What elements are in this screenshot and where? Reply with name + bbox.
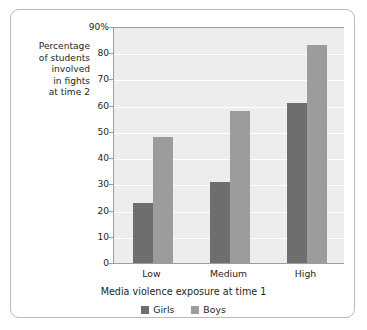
- y-axis-tick-mark: [109, 184, 113, 185]
- y-axis-tick-label: 50: [75, 127, 109, 137]
- x-axis-title: Media violence exposure at time 1: [0, 286, 367, 297]
- x-axis-line: [113, 263, 344, 264]
- y-axis-tick-mark: [109, 132, 113, 133]
- legend-item-girls: Girls: [141, 304, 174, 315]
- plot-area: [113, 27, 344, 263]
- y-axis-tick-label: 80: [75, 48, 109, 58]
- x-axis-category-label: High: [295, 268, 316, 279]
- legend-swatch-boys: [191, 306, 199, 314]
- y-axis-tick-mark: [109, 263, 113, 264]
- y-axis-tick-label: 20: [75, 206, 109, 216]
- legend-swatch-girls: [141, 306, 149, 314]
- y-axis-tick-mark: [109, 158, 113, 159]
- y-axis-tick-label: 10: [75, 232, 109, 242]
- y-axis-tick-labels: 0102030405060708090%: [71, 0, 109, 330]
- bar-boys-low: [153, 137, 173, 263]
- x-axis-category-label: Medium: [210, 268, 247, 279]
- y-axis-tick-label: 60: [75, 101, 109, 111]
- chart-legend: Girls Boys: [0, 304, 367, 315]
- bar-boys-high: [307, 45, 327, 263]
- y-axis-tick-label: 30: [75, 179, 109, 189]
- y-axis-tick-label: 40: [75, 153, 109, 163]
- chart-figure: Percentage of students involved in fight…: [0, 0, 367, 330]
- y-axis-tick-mark: [109, 106, 113, 107]
- bar-girls-low: [133, 203, 153, 263]
- bar-boys-medium: [230, 111, 250, 263]
- bar-girls-medium: [210, 182, 230, 263]
- y-axis-tick-mark: [109, 27, 113, 28]
- legend-item-boys: Boys: [191, 304, 225, 315]
- y-axis-tick-mark: [109, 237, 113, 238]
- legend-label-boys: Boys: [203, 304, 225, 315]
- y-axis-tick-label: 70: [75, 74, 109, 84]
- y-axis-tick-mark: [109, 79, 113, 80]
- bar-girls-high: [287, 103, 307, 263]
- y-axis-tick-label: 90%: [75, 22, 109, 32]
- x-axis-category-label: Low: [142, 268, 160, 279]
- y-axis-tick-mark: [109, 53, 113, 54]
- legend-label-girls: Girls: [153, 304, 174, 315]
- y-axis-tick-mark: [109, 211, 113, 212]
- y-axis-tick-label: 0: [75, 258, 109, 268]
